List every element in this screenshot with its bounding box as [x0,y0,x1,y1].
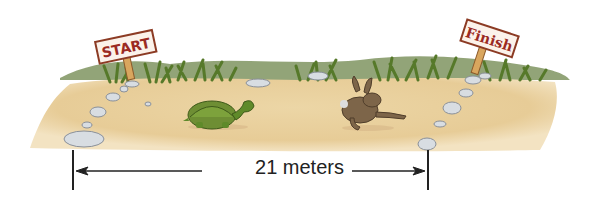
dirt-ground [30,78,557,151]
race-illustration: START Finish [0,0,599,199]
distance-label: 21 meters [0,156,599,178]
distance-text: 21 meters [247,156,352,178]
